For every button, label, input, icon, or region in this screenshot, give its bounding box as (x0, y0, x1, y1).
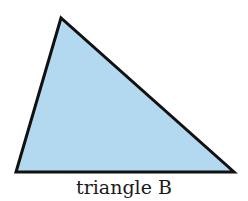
triangle-label: triangle B (0, 176, 248, 198)
diagram-canvas: triangle B (0, 0, 248, 201)
triangle-figure (0, 0, 248, 201)
triangle-b-shape (16, 18, 234, 172)
